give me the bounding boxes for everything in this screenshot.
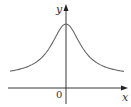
x-axis-arrow-icon <box>121 86 128 91</box>
bell-curve <box>10 24 124 71</box>
x-axis-label: x <box>122 91 129 104</box>
y-axis-label: y <box>55 3 63 16</box>
y-axis-arrow-icon <box>64 4 69 11</box>
graph: y 0 x <box>0 0 131 107</box>
origin-label: 0 <box>56 89 62 100</box>
